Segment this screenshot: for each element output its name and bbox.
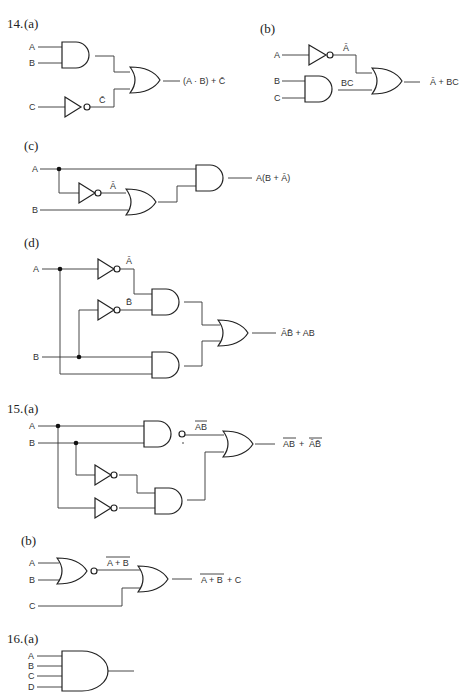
or-gate [126, 189, 156, 215]
and-gate [196, 165, 223, 191]
not-gate [79, 183, 95, 203]
part-label: (b) [21, 533, 36, 548]
junction-dot [74, 441, 79, 446]
input-a: A [29, 421, 35, 431]
wire-label: Ā [110, 181, 116, 191]
input-a: A [29, 42, 35, 52]
input-c: C [29, 601, 36, 611]
wire-label: B̄ [126, 297, 132, 307]
output-expression: ĀB̄ + AB [281, 328, 315, 338]
not-gate [98, 300, 114, 320]
input-c: C [28, 671, 35, 681]
wire-label: Ā [126, 256, 132, 266]
input-a: A [28, 651, 34, 661]
not-gate [65, 97, 81, 117]
part-label: (a) [24, 401, 38, 416]
input-b: B [33, 352, 39, 362]
circuit-14c: (c) A B Ā A(B + Ā) [24, 138, 290, 215]
circuit-14b: (b) A B C Ā BC Ā + BC [260, 21, 459, 103]
wire-label: Ā [343, 43, 349, 53]
not-gate [309, 45, 326, 65]
circuit-14a: 14. (a) A B C C̄ (A · B) + C̄ [7, 16, 226, 117]
or-gate [372, 68, 402, 94]
input-b: B [32, 205, 38, 215]
output-operator: + [299, 439, 304, 449]
input-b: B [28, 661, 34, 671]
wire-label: C̄ [99, 95, 106, 105]
input-a: A [29, 558, 35, 568]
and-gate [155, 488, 182, 514]
problem-number: 14. [7, 16, 23, 31]
problem-number: 16. [7, 631, 23, 646]
output-expression: Ā + BC [430, 77, 459, 87]
not-gate [95, 498, 111, 518]
junction-dot [77, 355, 82, 360]
output-expression: (A · B) + C̄ [183, 76, 226, 86]
wire-label: A + B [107, 558, 129, 568]
part-label: (a) [24, 16, 38, 31]
wire-label: AB [195, 422, 207, 432]
wire-label: BC [341, 78, 354, 88]
part-label: (a) [24, 631, 38, 646]
input-a: A [274, 50, 280, 60]
not-gate [95, 465, 111, 485]
problem-number: 15. [7, 401, 23, 416]
part-label: (b) [260, 21, 275, 36]
nand-gate [144, 421, 171, 447]
output-expression-tail: + C [227, 575, 242, 585]
input-a: A [32, 164, 38, 174]
junction-dot [56, 424, 61, 429]
junction-dot [58, 267, 63, 272]
and-gate [152, 352, 179, 378]
or-gate [138, 566, 168, 592]
or-gate [130, 67, 160, 93]
circuit-15a: 15. (a) A B AB AB + ĀB̄ [7, 401, 322, 518]
circuit-16a: 16. (a) A B C D [7, 631, 134, 692]
input-b: B [29, 58, 35, 68]
or-gate [223, 431, 253, 457]
output-term: AB [283, 439, 295, 449]
circuit-14d: (d) A B Ā B̄ ĀB̄ + AB [24, 235, 315, 378]
nor-gate [57, 558, 87, 584]
output-expression: A(B + Ā) [256, 173, 290, 183]
and-gate [62, 42, 89, 68]
input-b: B [29, 438, 35, 448]
circuit-15b: (b) A B C A + B A + B + C [21, 533, 242, 611]
and-gate [152, 289, 179, 315]
part-label: (d) [24, 235, 39, 250]
input-b: B [29, 575, 35, 585]
output-term: ĀB̄ [309, 439, 321, 449]
input-c: C [29, 102, 36, 112]
and-gate [305, 76, 332, 102]
junction-dot [57, 167, 62, 172]
input-b: B [274, 76, 280, 86]
input-d: D [28, 682, 35, 692]
output-expression: A + B [201, 575, 223, 585]
input-c: C [274, 93, 281, 103]
input-a: A [33, 264, 39, 274]
or-gate [218, 320, 248, 346]
and-gate-4-input [62, 651, 108, 691]
part-label: (c) [24, 138, 38, 153]
not-gate [98, 259, 114, 279]
